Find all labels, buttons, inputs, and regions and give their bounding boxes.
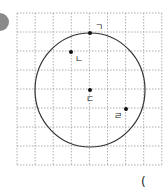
point-label-nieun: ㄴ xyxy=(75,54,83,64)
point-digeut xyxy=(88,88,92,92)
point-label-rieul: ㄹ xyxy=(114,111,122,121)
circle-grid-diagram: ㄱㄴㄷㄹ ( xyxy=(0,0,165,191)
point-nieun xyxy=(69,50,73,54)
stray-mark: ( xyxy=(141,175,146,189)
point-giyeok xyxy=(88,31,92,35)
point-label-giyeok: ㄱ xyxy=(95,22,103,32)
problem-number-badge xyxy=(0,13,9,31)
point-rieul xyxy=(124,107,128,111)
point-label-digeut: ㄷ xyxy=(86,94,94,104)
labeled-points: ㄱㄴㄷㄹ xyxy=(69,22,128,121)
